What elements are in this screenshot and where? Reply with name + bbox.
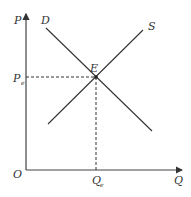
x-axis-label: Q [174,174,183,187]
demand-curve [46,28,152,131]
equilibrium-label: E [89,62,98,75]
equilibrium-quantity-subscript: e [100,181,104,188]
origin-label: O [13,168,22,181]
demand-label: D [40,14,50,27]
equilibrium-price-subscript: e [21,79,25,86]
y-axis-label: P [13,14,22,27]
equilibrium-point [94,75,98,79]
supply-label: S [148,20,156,33]
supply-demand-diagram: P Q O D S E P e Q e [0,0,191,197]
equilibrium-price-label: P [12,72,21,85]
